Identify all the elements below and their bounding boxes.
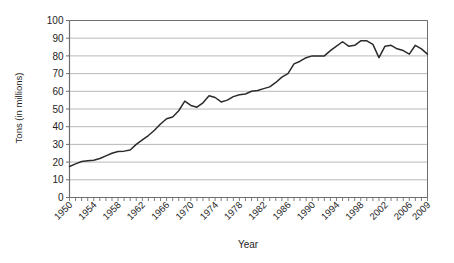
- y-axis-tick-labels: 0102030405060708090100: [47, 15, 64, 203]
- chart-container: 0102030405060708090100 19501954195819621…: [0, 0, 454, 263]
- y-axis-tick-label: 70: [52, 68, 64, 79]
- y-axis-tick-label: 90: [52, 33, 64, 44]
- x-axis-tick-label: 1986: [270, 199, 293, 222]
- y-axis-tick-label: 100: [47, 15, 64, 26]
- data-line-group: [70, 41, 428, 167]
- gridlines-group: [70, 21, 428, 180]
- x-axis-tick-label: 1974: [197, 199, 220, 222]
- x-axis-tick-label: 1970: [173, 199, 196, 222]
- x-axis-tick-label: 1994: [319, 199, 342, 222]
- x-axis-tick-labels: 1950195419581962196619701974197819821986…: [52, 199, 433, 222]
- x-axis-tick-label: 1982: [246, 199, 269, 222]
- x-axis-tick-label: 1958: [100, 199, 123, 222]
- x-axis-tick-label: 2002: [367, 199, 390, 222]
- y-axis-tick-label: 20: [52, 157, 64, 168]
- y-axis-tick-label: 60: [52, 86, 64, 97]
- x-axis-tick-label: 1978: [222, 199, 245, 222]
- x-axis-tick-label: 1966: [149, 199, 172, 222]
- line-chart: 0102030405060708090100 19501954195819621…: [0, 0, 454, 263]
- data-series-line: [70, 41, 428, 167]
- x-axis-tick-label: 1950: [52, 199, 75, 222]
- x-axis-tick-label: 2006: [391, 199, 414, 222]
- y-axis-title: Tons (in millions): [13, 73, 24, 144]
- x-axis-title: Year: [238, 239, 259, 250]
- x-axis-tick-label: 1962: [125, 199, 148, 222]
- x-axis-tick-label: 1954: [76, 199, 99, 222]
- x-axis-tick-label: 1998: [343, 199, 366, 222]
- y-axis-tick-label: 40: [52, 121, 64, 132]
- y-axis-tick-label: 30: [52, 139, 64, 150]
- y-axis-tick-label: 80: [52, 51, 64, 62]
- x-axis-tick-label: 1990: [294, 199, 317, 222]
- x-axis-tick-label: 2009: [410, 199, 433, 222]
- y-axis-tick-label: 10: [52, 174, 64, 185]
- y-axis-tick-label: 50: [52, 104, 64, 115]
